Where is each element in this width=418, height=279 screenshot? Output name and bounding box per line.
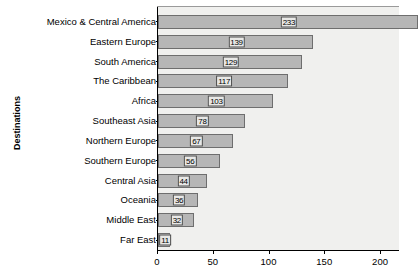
x-axis-tick-mark — [213, 250, 214, 254]
category-label-row: Southeast Asia — [14, 116, 156, 126]
bar-value-label: 129 — [223, 56, 239, 67]
category-label-row: Mexico & Central America — [14, 17, 156, 27]
category-label: Mexico & Central America — [47, 17, 156, 27]
bar-value-label: 44 — [177, 175, 189, 186]
category-label-row: Southern Europe — [14, 156, 156, 166]
bar[interactable]: 44 — [158, 174, 207, 188]
category-label: Central Asia — [105, 176, 156, 186]
x-axis-tick-mark — [269, 250, 270, 254]
category-label-row: Oceania — [14, 195, 156, 205]
x-axis-tick-mark — [157, 250, 158, 254]
x-axis-tick-label: 100 — [261, 256, 277, 267]
category-label: Africa — [132, 96, 156, 106]
category-label-row: Eastern Europe — [14, 37, 156, 47]
category-label: Middle East — [106, 215, 156, 225]
bar[interactable]: 36 — [158, 193, 198, 207]
category-label: Eastern Europe — [90, 37, 156, 47]
category-label: Southeast Asia — [93, 116, 156, 126]
bar[interactable]: 11 — [158, 233, 170, 247]
x-axis-tick-label: 150 — [316, 256, 332, 267]
category-label: Oceania — [121, 195, 156, 205]
bar[interactable]: 139 — [158, 35, 313, 49]
bar-value-label: 32 — [171, 215, 183, 226]
bar-value-label: 56 — [184, 155, 196, 166]
bar[interactable]: 117 — [158, 74, 288, 88]
x-axis-tick-label: 0 — [154, 256, 159, 267]
bar[interactable]: 129 — [158, 55, 302, 69]
plot-area: 23313912911710378675644363211 — [157, 6, 399, 250]
x-axis-tick-label: 200 — [372, 256, 388, 267]
category-label-row: The Caribbean — [14, 76, 156, 86]
x-axis-tick-label: 50 — [207, 256, 218, 267]
category-label-row: Central Asia — [14, 176, 156, 186]
bar[interactable]: 103 — [158, 94, 273, 108]
bar[interactable]: 233 — [158, 15, 418, 29]
bar-value-label: 233 — [281, 16, 297, 27]
category-label: Far East — [120, 235, 156, 245]
category-label: The Caribbean — [93, 76, 156, 86]
bar-value-label: 67 — [190, 135, 202, 146]
category-label-row: Northern Europe — [14, 136, 156, 146]
bar[interactable]: 78 — [158, 114, 245, 128]
bar[interactable]: 67 — [158, 134, 233, 148]
bar[interactable]: 56 — [158, 154, 220, 168]
bar-value-label: 139 — [228, 36, 244, 47]
category-label: Southern Europe — [84, 156, 156, 166]
bar-value-label: 117 — [216, 76, 232, 87]
plot-top-border — [157, 6, 399, 7]
bar-value-label: 78 — [196, 116, 208, 127]
category-label: Northern Europe — [86, 136, 156, 146]
x-axis-tick-mark — [324, 250, 325, 254]
bar-value-label: 103 — [208, 96, 224, 107]
category-label-row: Far East — [14, 235, 156, 245]
category-label-row: Middle East — [14, 215, 156, 225]
category-label-row: South America — [14, 57, 156, 67]
x-axis-line — [157, 250, 399, 251]
category-label: South America — [94, 57, 156, 67]
bar-value-label: 36 — [173, 195, 185, 206]
bar[interactable]: 32 — [158, 213, 194, 227]
bar-value-label: 11 — [159, 235, 171, 246]
x-axis-tick-mark — [380, 250, 381, 254]
category-label-row: Africa — [14, 96, 156, 106]
y-axis-category-labels: Mexico & Central AmericaEastern EuropeSo… — [14, 12, 156, 250]
